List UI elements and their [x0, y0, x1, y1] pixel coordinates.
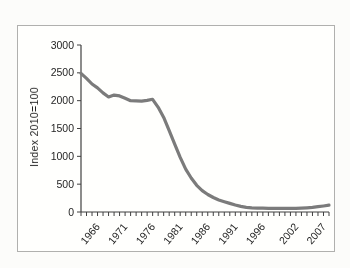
- y-tick-label: 3000: [51, 39, 75, 51]
- line-chart: 0500100015002000250030001966197119761981…: [18, 26, 334, 251]
- data-series-line: [81, 73, 329, 208]
- x-tick-label: 1986: [188, 220, 212, 246]
- x-tick-label: 1966: [78, 220, 102, 246]
- chart-panel: Index 2010=100 0500100015002000250030001…: [17, 25, 335, 252]
- x-tick-label: 1996: [243, 220, 267, 246]
- y-tick-label: 0: [68, 206, 74, 218]
- y-tick-label: 1500: [51, 122, 75, 134]
- x-tick-label: 2007: [304, 220, 328, 246]
- y-tick-label: 2000: [51, 94, 75, 106]
- x-tick-label: 1991: [216, 220, 240, 246]
- chart-image: Index 2010=100 0500100015002000250030001…: [0, 0, 350, 268]
- x-tick-label: 2002: [276, 220, 300, 246]
- y-tick-label: 2500: [51, 66, 75, 78]
- y-tick-label: 500: [56, 178, 74, 190]
- x-tick-label: 1976: [133, 220, 157, 246]
- x-tick-label: 1971: [105, 220, 129, 246]
- y-tick-label: 1000: [51, 150, 75, 162]
- x-tick-label: 1981: [161, 220, 185, 246]
